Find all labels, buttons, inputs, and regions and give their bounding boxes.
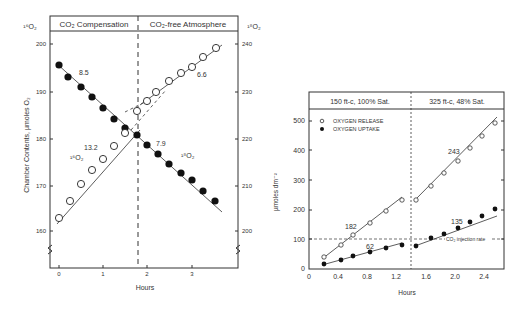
x-tick-label: 0.4	[333, 273, 343, 280]
right-axis-isotope-label: ¹⁸O₂	[247, 23, 261, 30]
rate-label-o16-phase1: 13.2	[84, 144, 98, 151]
y-tick-label: 0	[301, 265, 305, 272]
y-tick-label: 200	[36, 41, 47, 47]
y-tick-label: 400	[293, 147, 305, 154]
legend-oxygen-uptake: OXYGEN UPTAKE	[333, 126, 380, 132]
y-tick-label: 300	[293, 177, 305, 184]
left-x-ticks: 0 1 2 3	[57, 265, 194, 277]
right-y-axis-title: µmoles dm⁻²	[272, 172, 280, 211]
right-x-axis-title: Hours	[398, 289, 416, 296]
rate-label-release-phase2: 243	[448, 148, 460, 155]
right-header-phase2: 325 ft-c, 48% Sat.	[429, 98, 485, 105]
y-tick-label: 190	[36, 89, 47, 95]
x-tick-label: 2.0	[450, 273, 460, 280]
y-tick-label: 100	[293, 236, 305, 243]
curve-label-18o2: ¹⁸O₂	[181, 152, 195, 159]
right-axis-break-icon	[236, 245, 240, 254]
rate-label-o18-phase1: 8.5	[79, 69, 89, 76]
x-tick-label: 1	[101, 271, 105, 277]
uptake-fit-phase1	[322, 243, 402, 265]
left-y-axis-title: Chamber Contents, µmoles O₂	[23, 97, 31, 193]
left-axis-isotope-label: ¹⁶O₂	[23, 23, 37, 30]
right-legend: OXYGEN RELEASE OXYGEN UPTAKE	[320, 118, 384, 132]
release-fit-phase1	[322, 197, 402, 259]
left-header-co2-compensation: CO₂ Compensation	[60, 20, 129, 29]
y-tick-label: 500	[293, 117, 305, 124]
right-chart: 150 ft-c, 100% Sat. 325 ft-c, 48% Sat. O…	[272, 92, 504, 296]
legend-oxygen-release: OXYGEN RELEASE	[333, 118, 384, 124]
release-fit-phase2	[415, 117, 497, 200]
right-chart-y-ticks: 500 400 300 200 100 0	[293, 117, 504, 272]
rate-label-o18-phase2: 7.9	[156, 140, 166, 147]
rate-label-uptake-phase2: 135	[451, 218, 463, 225]
rate-label-release-phase1: 182	[345, 223, 357, 230]
y-tick-label: 180	[36, 136, 47, 142]
y-tick-label: 200	[293, 206, 305, 213]
y-tick-label: 160	[36, 228, 47, 234]
y-tick-label: 230	[242, 89, 253, 95]
x-tick-label: 3	[190, 271, 194, 277]
x-tick-label: 0.8	[362, 273, 372, 280]
y-tick-label: 210	[242, 183, 253, 189]
x-tick-label: 2	[145, 271, 149, 277]
legend-filled-circle-icon	[320, 127, 324, 131]
curve-label-16o2: ¹⁶O₂	[70, 154, 84, 161]
y-tick-label: 220	[242, 136, 253, 142]
y-tick-label: 240	[242, 41, 253, 47]
left-axis-break-icon	[48, 245, 52, 254]
x-tick-label: 1.2	[391, 273, 401, 280]
y-tick-label: 200	[242, 228, 253, 234]
y-tick-label: 170	[36, 183, 47, 189]
legend-open-circle-icon	[320, 119, 324, 123]
x-tick-label: 0	[307, 273, 311, 280]
left-chart: CO₂ Compensation CO₂-free Atmosphere ¹⁶O…	[23, 16, 261, 291]
figure: CO₂ Compensation CO₂-free Atmosphere ¹⁶O…	[0, 0, 526, 309]
left-header-co2-free: CO₂-free Atmosphere	[150, 20, 227, 29]
left-x-axis-title: Hours	[136, 284, 155, 291]
co2-injection-rate-label: CO₂ injection rate	[446, 236, 485, 242]
x-tick-label: 0	[57, 271, 61, 277]
right-header-phase1: 150 ft-c, 100% Sat.	[330, 98, 390, 105]
x-tick-label: 2.4	[479, 273, 489, 280]
rate-label-uptake-phase1: 62	[366, 243, 374, 250]
right-chart-x-ticks: 0 0.4 0.8 1.2 1.6 2.0 2.4	[307, 273, 489, 280]
o16-fit-line-phase1	[57, 130, 140, 224]
rate-label-o16-phase2: 6.6	[197, 71, 207, 78]
x-tick-label: 1.6	[421, 273, 431, 280]
